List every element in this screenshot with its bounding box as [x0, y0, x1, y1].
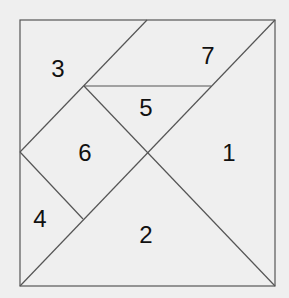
piece-label-2: 2 — [139, 221, 152, 248]
tangram-diagram: 1 2 3 4 5 6 7 — [0, 0, 289, 298]
piece-label-4: 4 — [33, 205, 46, 232]
piece-label-6: 6 — [78, 139, 91, 166]
piece-label-3: 3 — [51, 55, 64, 82]
piece-label-1: 1 — [222, 139, 235, 166]
left-short-diagonal — [20, 152, 83, 219]
cross-diagonal — [84, 86, 275, 286]
piece-label-7: 7 — [201, 42, 214, 69]
piece-label-5: 5 — [139, 94, 152, 121]
